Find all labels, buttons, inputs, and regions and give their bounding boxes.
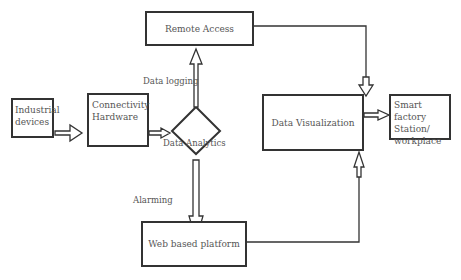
node-data-visualization-label: Data Visualization	[272, 117, 355, 129]
node-connectivity-hardware[interactable]: Connectivity Hardware	[87, 93, 149, 147]
node-web-platform-label: Web based platform	[148, 238, 239, 250]
node-smart-line1: Smart factory	[394, 99, 449, 123]
node-remote-access-label: Remote Access	[165, 23, 234, 35]
node-data-visualization[interactable]: Data Visualization	[262, 94, 364, 151]
node-connectivity-line1: Connectivity	[92, 99, 147, 111]
node-industrial-line2: devices	[15, 116, 52, 128]
node-smart-line3: workplace	[394, 135, 449, 147]
label-alarming: Alarming	[133, 195, 173, 205]
node-connectivity-line2: Hardware	[92, 111, 147, 123]
label-data-analytics: Data Analytics	[163, 138, 226, 148]
node-smart-factory[interactable]: Smart factory Station/ workplace	[389, 94, 451, 140]
node-remote-access[interactable]: Remote Access	[145, 11, 254, 46]
node-industrial-devices[interactable]: Industrial devices	[11, 98, 54, 138]
node-industrial-line1: Industrial	[15, 104, 52, 116]
node-smart-line2: Station/	[394, 123, 449, 135]
node-web-platform[interactable]: Web based platform	[141, 221, 247, 267]
label-data-logging: Data logging	[143, 76, 198, 86]
